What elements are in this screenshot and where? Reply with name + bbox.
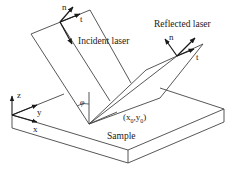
reflected-t-arrow [177,49,194,56]
sample-label: Sample [107,132,136,142]
axis-y-arrow [12,105,37,115]
incident-t-label: t [80,15,83,24]
reflected-beam-arrow [177,38,195,56]
point-coordinates-label: (x0,y0) [123,113,146,124]
axis-x-label: x [33,125,38,134]
incident-beam-arrow [60,22,72,44]
angle-phi-label: φ [80,99,84,107]
axis-y-label: y [37,108,42,117]
reflected-n-label: n [169,33,174,42]
incident-n-label: n [62,3,67,12]
coordinate-axes [12,96,37,122]
incident-laser-label: Incident laser [78,37,129,47]
laser-reflection-diagram: n t Incident laser Reflected laser n t φ… [0,0,231,173]
axis-z-label: z [17,91,21,100]
axis-x-arrow [12,115,37,122]
reflected-laser-label: Reflected laser [154,20,211,30]
reflected-t-label: t [196,53,199,62]
sample-slab [12,88,224,163]
